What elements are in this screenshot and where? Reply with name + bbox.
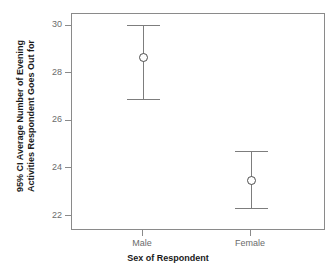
- y-tick-label-28: 28: [22, 68, 62, 77]
- x-tick-label-female: Female: [210, 238, 290, 248]
- x-tick-label-male: Male: [102, 238, 182, 248]
- plot-area: [71, 13, 325, 230]
- error-bar-cap-upper-male: [127, 25, 160, 26]
- error-bar-chart: 95% CI Average Number of Evening Activit…: [0, 0, 336, 276]
- y-tick-label-24: 24: [22, 163, 62, 172]
- y-tick-label-26: 26: [22, 115, 62, 124]
- y-tick-label-22: 22: [22, 211, 62, 220]
- mean-marker-male: [139, 53, 148, 62]
- x-tick-mark-female: [250, 230, 251, 236]
- error-bar-line-male: [143, 25, 144, 99]
- error-bar-cap-upper-female: [235, 151, 268, 152]
- x-tick-mark-male: [142, 230, 143, 236]
- mean-marker-female: [247, 176, 256, 185]
- error-bar-cap-lower-female: [235, 208, 268, 209]
- y-tick-label-30: 30: [22, 20, 62, 29]
- error-bar-cap-lower-male: [127, 99, 160, 100]
- x-axis-title: Sex of Respondent: [0, 253, 336, 263]
